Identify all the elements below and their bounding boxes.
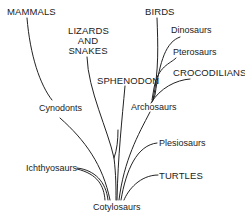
label-cynodonts: Cynodonts <box>39 104 82 113</box>
label-lizards-line3: SNAKES <box>68 46 108 56</box>
label-dinosaurs: Dinosaurs <box>171 26 212 35</box>
label-mammals: MAMMALS <box>7 7 56 17</box>
label-plesiosaurs: Plesiosaurs <box>159 139 206 148</box>
label-archosaurs: Archosaurs <box>131 103 177 112</box>
label-pterosaurs: Pterosaurs <box>173 48 217 57</box>
branch-ichthyosaurs-2 <box>77 169 105 200</box>
branch-sphenodon <box>117 86 125 200</box>
branch-plesiosaurs <box>121 143 157 200</box>
label-crocodilians: CROCODILIANS <box>173 68 245 78</box>
branch-mammals <box>27 18 52 100</box>
branch-turtles <box>124 175 158 200</box>
label-ichthyosaurs: Ichthyosaurs <box>26 164 77 173</box>
label-sphenodon: SPHENODON <box>97 76 159 86</box>
label-lizards-and-snakes: LIZARDS AND SNAKES <box>68 26 108 56</box>
branch-lizards-merge <box>114 130 118 158</box>
label-turtles: TURTLES <box>159 171 203 181</box>
label-birds: BIRDS <box>145 7 175 17</box>
branch-ichthyosaurs <box>77 168 108 200</box>
label-cotylosaurs: Cotylosaurs <box>93 203 141 212</box>
